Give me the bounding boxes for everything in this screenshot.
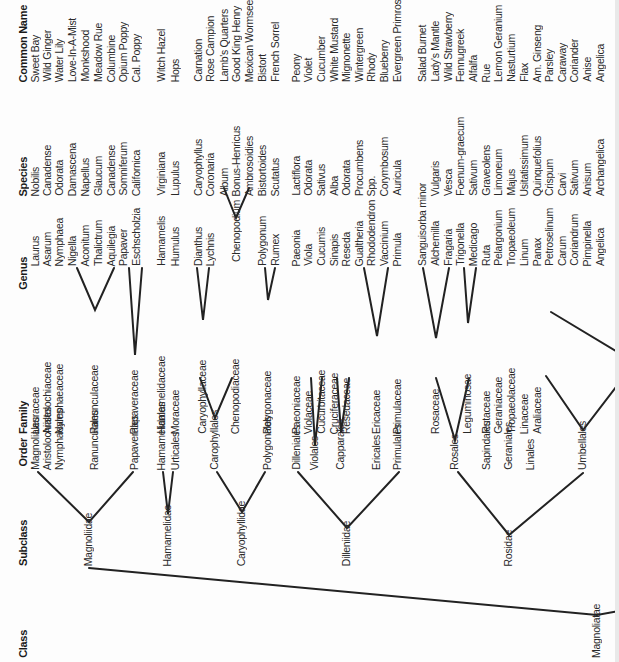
common-name-label: White Mustard xyxy=(329,18,340,82)
species-label: Odorata xyxy=(303,160,314,196)
family-label: Cucurbitaceae xyxy=(316,370,327,434)
header-species: Species xyxy=(18,157,29,196)
genus-label: Pelargonium xyxy=(493,210,504,266)
common-name-label: Blueberry xyxy=(379,40,390,82)
genus-label: Lychnis xyxy=(205,233,216,266)
genus-label: Trigonella xyxy=(455,223,466,266)
order-label: Aristolochiales xyxy=(42,407,53,470)
family-label: Ericaceae xyxy=(371,390,382,434)
genus-label: Ruta xyxy=(481,245,492,266)
genus-label: Gualtheria xyxy=(354,221,365,266)
common-name-label: Love-In-A-Mist xyxy=(67,18,78,82)
species-label: Usitatissimum xyxy=(519,135,530,196)
species-label: Virginiana xyxy=(156,152,167,196)
branch-rosaceae xyxy=(423,268,449,338)
common-name-label: Bistort xyxy=(257,54,268,82)
common-name-label: Nasturtium xyxy=(506,34,517,82)
genus-label: Laurus xyxy=(30,236,41,266)
order-label: Urticales xyxy=(170,432,181,470)
header-family: Family xyxy=(18,401,29,434)
genus-label: Pimpinella xyxy=(582,221,593,266)
common-name-label: Sweet Bay xyxy=(30,35,41,83)
species-label: Auricula xyxy=(392,160,403,196)
order-label: Primulales xyxy=(392,424,403,470)
common-name-label: Rue xyxy=(481,64,492,82)
genus-label: Alchemilla xyxy=(430,221,441,266)
order-label: Nymphaeales xyxy=(54,409,65,470)
common-name-label: Coriander xyxy=(569,39,580,82)
common-name-label: French Sorrel xyxy=(270,22,281,82)
common-name-label: Alfalfa xyxy=(468,55,479,82)
common-name-label: Evergreen Primrose xyxy=(392,0,403,82)
order-label: Violales xyxy=(309,436,320,470)
species-label: Coronaria xyxy=(205,153,216,196)
order-label: Ranunculales xyxy=(89,410,100,470)
common-name-label: Hops xyxy=(170,59,181,82)
genus-label: Sinapis xyxy=(329,234,340,266)
branch-rosidae xyxy=(458,472,583,535)
branch-dilleniidae xyxy=(298,472,399,528)
species-label: Corymbosum xyxy=(379,137,390,196)
common-name-label: Angelica xyxy=(595,44,606,82)
common-name-label: Peony xyxy=(291,54,302,82)
order-label: Linales xyxy=(525,439,536,470)
subclass-label: Rosidae xyxy=(503,530,514,566)
species-label: Damascena xyxy=(67,143,78,196)
species-label: Californica xyxy=(131,150,142,196)
species-label: Odorata xyxy=(341,160,352,196)
species-label: Scutatus xyxy=(270,158,281,196)
species-label: Vesca xyxy=(443,169,454,196)
order-label: Sapindales xyxy=(481,421,492,470)
species-label: Napellus xyxy=(80,158,91,196)
common-name-label: Flax xyxy=(519,63,530,82)
common-name-label: Mexican Wormseed Tea xyxy=(244,0,255,82)
genus-label: Coriandrum xyxy=(569,214,580,266)
common-name-label: Wild Strawberry xyxy=(443,12,454,82)
common-name-label: Meadow Rue xyxy=(93,23,104,82)
order-label: Geraniales xyxy=(503,422,514,470)
common-name-label: Monkshood xyxy=(80,30,91,82)
branch-papaveraceae xyxy=(129,268,142,355)
common-name-label: Rose Campion xyxy=(205,16,216,82)
species-label: Lactiflora xyxy=(291,156,302,196)
branch-leguminosae xyxy=(464,268,476,323)
common-name-label: Good King Henry xyxy=(231,6,242,82)
genus-label: Petroselinum xyxy=(544,208,555,266)
genus-label: Panax xyxy=(532,238,543,266)
species-label: Spp. xyxy=(366,176,377,196)
family-label: Leguminosae xyxy=(462,374,473,434)
species-label: Archangelica xyxy=(595,139,606,196)
branch-ericaceae xyxy=(364,268,388,336)
common-name-label: Rhody xyxy=(366,53,377,82)
genus-label: Medicago xyxy=(468,223,479,266)
species-label: Glaucum xyxy=(93,156,104,196)
order-label: Capparales xyxy=(335,419,346,470)
subclass-label: Dilleniidae xyxy=(341,521,352,566)
genus-label: Viola xyxy=(303,244,314,266)
genus-label: Carum xyxy=(557,236,568,266)
branch-caryophyllaceae xyxy=(197,268,209,320)
genus-label: Nigella xyxy=(67,236,78,266)
genus-label: Nymphaea xyxy=(54,218,65,266)
genus-label: Dianthus xyxy=(193,227,204,266)
header-class: Class xyxy=(18,630,29,658)
common-name-label: Wild Ginger xyxy=(42,30,53,82)
species-label: Sativum xyxy=(569,160,580,196)
genus-label: Linum xyxy=(519,239,530,266)
order-label: Rosales xyxy=(449,434,460,470)
order-label: Carophyllales xyxy=(209,410,220,470)
genus-label: Primula xyxy=(392,233,403,267)
species-label: Anisum xyxy=(582,163,593,196)
common-name-label: Water Lily xyxy=(54,39,65,82)
header-order: Order xyxy=(18,438,29,466)
class-label: Magnoliatae xyxy=(591,604,602,658)
genus-label: Rhododendron xyxy=(366,200,377,266)
species-label: Vulgaris xyxy=(430,161,441,196)
common-name-label: Columbine xyxy=(106,35,117,83)
branch-petroselinum xyxy=(551,312,619,353)
subclass-label: Magnoliidae xyxy=(83,513,94,566)
species-label: Bonus-Henricus xyxy=(231,126,242,197)
species-label: Lupulus xyxy=(170,161,181,196)
header-genus: Genus xyxy=(18,257,29,290)
family-label: Araliaceae xyxy=(532,387,543,434)
